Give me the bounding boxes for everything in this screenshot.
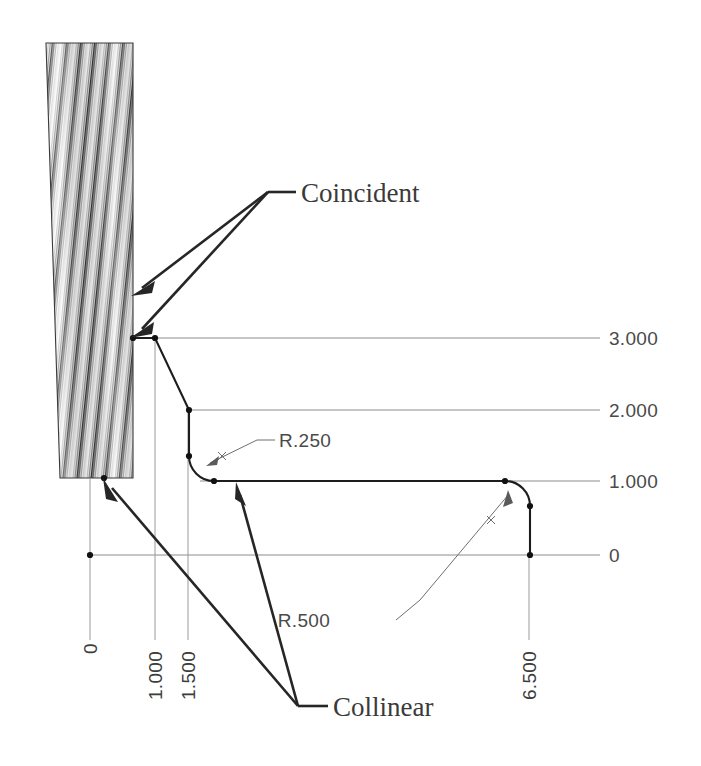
vertex-fillet-250-start (186, 453, 192, 459)
collinear-leaders (103, 478, 328, 706)
radius-500-leader-line (396, 494, 509, 620)
drawing-canvas: 3.000 2.000 1.000 0 0 1.000 1.500 6.500 … (0, 0, 701, 766)
dim-label-2000: 2.000 (609, 400, 658, 421)
dim-label-x-6500: 6.500 (519, 651, 540, 700)
part-profile-path (133, 338, 530, 555)
dim-label-1000: 1.000 (609, 471, 658, 492)
vertical-extension-lines (90, 338, 529, 640)
coincident-arrowhead-2 (130, 322, 154, 338)
radius-250-arrowhead (206, 456, 219, 466)
radius-label-500: R.500 (278, 610, 330, 631)
coincident-leaders (130, 192, 296, 338)
horizontal-dimension-lines (90, 338, 600, 555)
vertex-origin (87, 552, 93, 558)
vertex-fillet-500-end (527, 503, 533, 509)
radius-label-250: R.250 (279, 430, 331, 451)
annotation-coincident: Coincident (301, 178, 420, 208)
profile-outline (133, 338, 530, 555)
radius-labels: R.250 R.500 (278, 430, 331, 631)
radius-500-arrowhead (503, 490, 513, 507)
collinear-arrowhead-2 (235, 482, 246, 506)
vertex-fillet-500-start (502, 478, 508, 484)
coincident-leader-1 (142, 192, 268, 288)
radius-250-leader-line (210, 440, 275, 463)
dim-label-3000: 3.000 (609, 328, 658, 349)
dim-label-x-0: 0 (80, 643, 101, 654)
collinear-arrowhead-1 (103, 478, 118, 502)
annotation-collinear: Collinear (333, 692, 433, 722)
vertex-fillet-250-end (211, 478, 217, 484)
coincident-leader-2 (142, 192, 268, 329)
radius-250-leader (206, 440, 275, 466)
technical-drawing-svg: 3.000 2.000 1.000 0 0 1.000 1.500 6.500 … (0, 0, 701, 766)
collinear-leader-2 (240, 495, 298, 706)
vertex-step-2000 (186, 407, 192, 413)
vertex-bottom-right (527, 552, 533, 558)
coincident-arrowhead-1 (131, 281, 155, 296)
wall-section-hatch (40, 38, 140, 484)
vertex-top-left (152, 335, 158, 341)
horizontal-dimension-labels: 0 1.000 1.500 6.500 (80, 643, 540, 700)
vertical-dimension-labels: 3.000 2.000 1.000 0 (609, 328, 658, 566)
dim-label-0: 0 (609, 545, 620, 566)
dim-label-x-1500: 1.500 (178, 651, 199, 700)
dim-label-x-1000: 1.000 (145, 651, 166, 700)
collinear-leader-1 (112, 488, 298, 706)
